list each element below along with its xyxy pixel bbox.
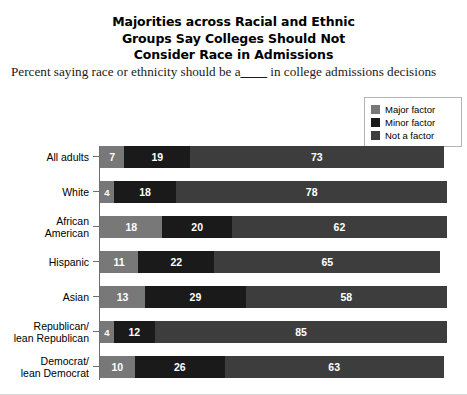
bar-value-label: 4 (104, 327, 109, 338)
legend-swatch-icon (371, 105, 380, 114)
bar-value-label: 58 (341, 291, 353, 303)
bar-row: All adults71973 (0, 146, 467, 168)
plot-area: All adults71973White41878AfricanAmerican… (0, 143, 467, 385)
bar-segment-not-a-factor[interactable]: 78 (176, 181, 447, 203)
subtitle-text-after: in college admissions decisions (267, 64, 436, 79)
bar-segment-major-factor[interactable]: 18 (100, 216, 162, 238)
bar-value-label: 26 (174, 361, 186, 373)
bar-value-label: 10 (112, 361, 124, 373)
legend-swatch-icon (371, 131, 380, 140)
axis-tick (93, 156, 99, 157)
bar-value-label: 73 (311, 151, 323, 163)
legend-label: Not a factor (385, 130, 434, 141)
category-label-line: Asian (63, 291, 89, 303)
page-title: Majorities across Racial and Ethnic Grou… (0, 14, 467, 64)
title-line-3: Consider Race in Admissions (0, 47, 467, 64)
bar-segment-not-a-factor[interactable]: 85 (155, 321, 447, 343)
stacked-bar: 41285 (100, 321, 447, 343)
category-label: Asian (0, 286, 89, 308)
bar-value-label: 85 (295, 326, 307, 338)
bar-row: White41878 (0, 181, 467, 203)
bar-row: Hispanic112265 (0, 251, 467, 273)
legend-swatch-icon (371, 118, 380, 127)
category-label: Hispanic (0, 251, 89, 273)
bar-segment-major-factor[interactable]: 7 (100, 146, 124, 168)
stacked-bar: 41878 (100, 181, 447, 203)
axis-tick (93, 261, 99, 262)
bar-value-label: 63 (328, 361, 340, 373)
category-label-line: Hispanic (49, 256, 89, 268)
bar-value-label: 20 (191, 221, 203, 233)
axis-tick (93, 226, 99, 227)
bar-segment-minor-factor[interactable]: 29 (145, 286, 246, 308)
bar-segment-not-a-factor[interactable]: 73 (190, 146, 443, 168)
legend-item-not-a-factor[interactable]: Not a factor (371, 129, 456, 141)
bar-row: Asian132958 (0, 286, 467, 308)
category-label-line: lean Democrat (21, 367, 89, 379)
subtitle-blank: ____ (241, 64, 267, 79)
bar-value-label: 11 (114, 256, 125, 268)
category-label-line: African (56, 215, 89, 227)
bar-value-label: 18 (125, 221, 137, 233)
bar-row: AfricanAmerican182062 (0, 216, 467, 238)
axis-tick (93, 191, 99, 192)
bar-value-label: 13 (117, 291, 129, 303)
chart-figure: Majorities across Racial and Ethnic Grou… (0, 0, 467, 395)
bar-segment-major-factor[interactable]: 11 (100, 251, 138, 273)
bar-segment-not-a-factor[interactable]: 58 (246, 286, 447, 308)
category-label: White (0, 181, 89, 203)
bar-segment-major-factor[interactable]: 13 (100, 286, 145, 308)
stacked-bar: 132958 (100, 286, 447, 308)
legend-item-major-factor[interactable]: Major factor (371, 103, 456, 115)
category-label-line: All adults (46, 151, 89, 163)
bar-value-label: 19 (151, 151, 163, 163)
chart-subtitle: Percent saying race or ethnicity should … (11, 64, 461, 80)
category-label: AfricanAmerican (0, 216, 89, 238)
bar-value-label: 29 (190, 291, 202, 303)
bar-value-label: 7 (109, 151, 115, 163)
axis-tick (93, 296, 99, 297)
axis-tick (93, 331, 99, 332)
category-label-line: Democrat/ (41, 355, 89, 367)
bar-segment-not-a-factor[interactable]: 62 (232, 216, 447, 238)
category-label: Democrat/lean Democrat (0, 356, 89, 378)
stacked-bar: 182062 (100, 216, 447, 238)
bar-segment-major-factor[interactable]: 4 (100, 181, 114, 203)
title-line-2: Groups Say Colleges Should Not (0, 31, 467, 48)
bar-value-label: 62 (334, 221, 346, 233)
category-label-line: Republican/ (34, 320, 89, 332)
legend-item-minor-factor[interactable]: Minor factor (371, 116, 456, 128)
bar-value-label: 22 (170, 256, 182, 268)
stacked-bar: 102663 (100, 356, 447, 378)
stacked-bar: 71973 (100, 146, 447, 168)
bar-segment-not-a-factor[interactable]: 65 (214, 251, 440, 273)
bar-value-label: 12 (129, 326, 141, 338)
bar-segment-major-factor[interactable]: 10 (100, 356, 135, 378)
legend-label: Major factor (385, 104, 435, 115)
bar-value-label: 18 (139, 186, 151, 198)
bar-row: Republican/lean Republican41285 (0, 321, 467, 343)
bar-value-label: 4 (104, 187, 109, 198)
title-line-1: Majorities across Racial and Ethnic (0, 14, 467, 31)
subtitle-text-before: Percent saying race or ethnicity should … (11, 64, 241, 79)
bar-segment-not-a-factor[interactable]: 63 (225, 356, 444, 378)
bar-segment-minor-factor[interactable]: 22 (138, 251, 214, 273)
stacked-bar: 112265 (100, 251, 447, 273)
bar-segment-minor-factor[interactable]: 19 (124, 146, 190, 168)
category-label: All adults (0, 146, 89, 168)
bar-segment-minor-factor[interactable]: 20 (162, 216, 231, 238)
bar-value-label: 65 (321, 256, 333, 268)
bar-segment-minor-factor[interactable]: 18 (114, 181, 176, 203)
chart-legend: Major factorMinor factorNot a factor (364, 97, 462, 147)
bar-value-label: 78 (306, 186, 318, 198)
legend-label: Minor factor (385, 117, 435, 128)
category-label-line: lean Republican (14, 332, 89, 344)
bar-segment-minor-factor[interactable]: 26 (135, 356, 225, 378)
category-label-line: American (45, 227, 89, 239)
category-label-line: White (62, 186, 89, 198)
bar-segment-minor-factor[interactable]: 12 (114, 321, 155, 343)
axis-tick (93, 366, 99, 367)
bar-segment-major-factor[interactable]: 4 (100, 321, 114, 343)
category-label: Republican/lean Republican (0, 321, 89, 343)
bar-row: Democrat/lean Democrat102663 (0, 356, 467, 378)
